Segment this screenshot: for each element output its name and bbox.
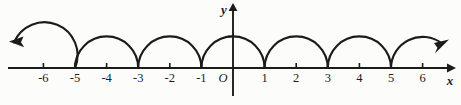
graph-figure: -6 -5 -4 -3 -2 -1 1 2 3 4 5 6 O x y [0,0,461,105]
x-tick-label--6: -6 [38,72,48,85]
y-axis-arrow-icon [229,3,238,11]
arch-right-tail [391,37,442,68]
x-tick-label-5: 5 [388,72,394,85]
x-tick-label-3: 3 [325,72,331,85]
x-tick-label--1: -1 [196,72,206,85]
x-tick-label--4: -4 [101,72,111,85]
x-tick-label-6: 6 [419,72,425,85]
curve-right-arrow-icon [434,40,449,54]
x-axis-arrow-icon [447,64,456,73]
coordinate-plane-svg [0,0,461,105]
function-curve [14,22,442,68]
x-tick-label-4: 4 [356,72,362,85]
x-tick-label--3: -3 [133,72,143,85]
y-axis [229,3,238,96]
y-axis-label: y [221,3,227,16]
x-tick-label-2: 2 [293,72,299,85]
x-tick-label-1: 1 [261,72,267,85]
x-tick-label--2: -2 [165,72,175,85]
x-axis-label: x [447,74,454,87]
arch-left-tail [14,22,78,68]
x-tick-label--5: -5 [70,72,80,85]
origin-label: O [218,72,227,85]
